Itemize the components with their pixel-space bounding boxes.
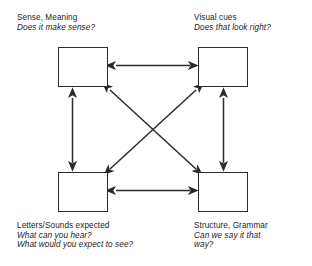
node-question-structure-1: Can we say it that <box>194 231 268 241</box>
node-heading-sense: Sense, Meaning <box>17 13 95 23</box>
node-box-letters <box>58 172 108 212</box>
node-question-letters-1: What can you hear? <box>17 231 133 241</box>
node-label-sense: Sense, Meaning Does it make sense? <box>17 13 95 32</box>
node-box-sense <box>58 47 108 87</box>
node-label-visual: Visual cues Does that look right? <box>194 13 271 32</box>
node-box-visual <box>198 47 248 87</box>
node-label-structure: Structure, Grammar Can we say it that wa… <box>194 221 268 250</box>
node-box-structure <box>198 172 248 212</box>
node-question-letters-2: What would you expect to see? <box>17 240 133 250</box>
node-label-letters: Letters/Sounds expected What can you hea… <box>17 221 133 250</box>
node-question-visual-1: Does that look right? <box>194 23 271 33</box>
node-question-sense-1: Does it make sense? <box>17 23 95 33</box>
node-heading-structure: Structure, Grammar <box>194 221 268 231</box>
node-heading-visual: Visual cues <box>194 13 271 23</box>
node-heading-letters: Letters/Sounds expected <box>17 221 133 231</box>
node-question-structure-2: way? <box>194 240 268 250</box>
diagram-canvas: Sense, Meaning Does it make sense? Visua… <box>0 0 312 266</box>
